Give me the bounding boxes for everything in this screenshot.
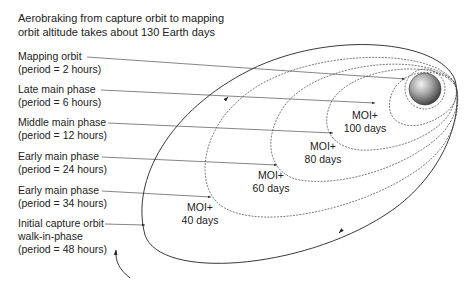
phase-label-late-main: Late main phase (period = 6 hours) <box>18 83 375 108</box>
svg-text:(period = 6 hours): (period = 6 hours) <box>18 96 101 108</box>
svg-text:40 days: 40 days <box>182 214 219 226</box>
phase-label-initial-capture: Initial capture orbit walk-in-phase (per… <box>17 217 145 255</box>
svg-text:80 days: 80 days <box>305 153 342 165</box>
svg-text:60 days: 60 days <box>253 182 290 194</box>
svg-text:Initial capture orbit: Initial capture orbit <box>18 217 104 229</box>
aerobraking-diagram: Aerobraking from capture orbit to mappin… <box>0 0 464 286</box>
phase-label-early-main-34h: Early main phase (period = 34 hours) <box>18 184 211 209</box>
direction-arrow-icon <box>339 232 340 233</box>
orbit-initial-capture <box>142 45 457 264</box>
svg-text:(period = 2 hours): (period = 2 hours) <box>18 63 101 75</box>
svg-text:100 days: 100 days <box>344 122 387 134</box>
svg-text:(period = 48 hours): (period = 48 hours) <box>18 243 107 255</box>
svg-text:walk-in-phase: walk-in-phase <box>17 230 83 242</box>
title-line-1: Aerobraking from capture orbit to mappin… <box>18 12 224 24</box>
phase-label-middle-main: Middle main phase (period = 12 hours) <box>18 116 333 141</box>
svg-text:Early main phase: Early main phase <box>18 184 99 196</box>
svg-text:Early main phase: Early main phase <box>18 150 99 162</box>
svg-text:Late main phase: Late main phase <box>18 83 96 95</box>
svg-text:MOI+: MOI+ <box>310 140 336 152</box>
svg-text:MOI+: MOI+ <box>352 109 378 121</box>
direction-arrow-icon <box>225 97 228 100</box>
svg-text:(period = 24 hours): (period = 24 hours) <box>18 163 107 175</box>
svg-text:Mapping orbit: Mapping orbit <box>18 50 82 62</box>
svg-text:(period = 12 hours): (period = 12 hours) <box>18 129 107 141</box>
phase-label-mapping: Mapping orbit (period = 2 hours) <box>18 50 405 79</box>
moi-label-60-days: MOI+ 60 days <box>253 169 290 194</box>
title-line-2: orbit altitude takes about 130 Earth day… <box>18 26 215 38</box>
direction-arrow-icon <box>116 250 130 278</box>
planet-sphere-icon <box>409 73 441 105</box>
moi-label-40-days: MOI+ 40 days <box>182 201 219 226</box>
svg-text:MOI+: MOI+ <box>187 201 213 213</box>
svg-text:(period = 34 hours): (period = 34 hours) <box>18 197 107 209</box>
svg-text:Middle main phase: Middle main phase <box>18 116 106 128</box>
phase-label-early-main-24h: Early main phase (period = 24 hours) <box>18 150 277 175</box>
moi-label-100-days: MOI+ 100 days <box>344 109 387 134</box>
svg-text:MOI+: MOI+ <box>258 169 284 181</box>
